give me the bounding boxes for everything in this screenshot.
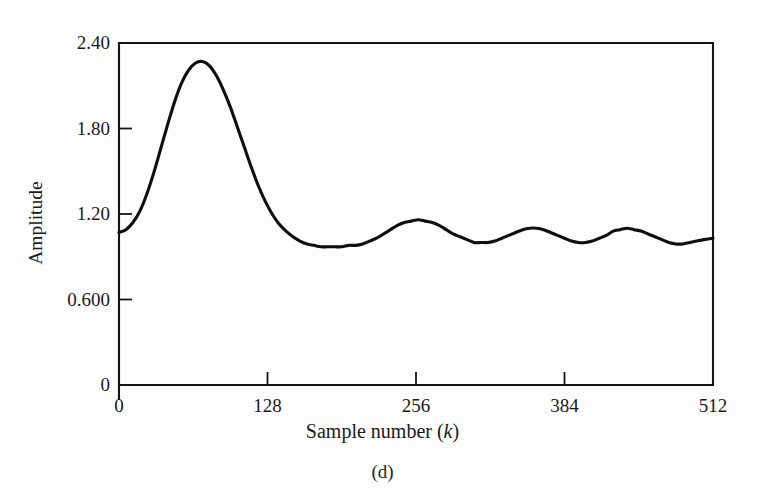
x-axis-title-suffix: ) — [452, 420, 459, 442]
y-tick-label: 1.80 — [0, 119, 110, 138]
axis-frame-path — [119, 43, 713, 385]
y-tick-label: 2.40 — [0, 33, 110, 52]
x-axis-title-prefix: Sample number ( — [306, 420, 444, 442]
x-tick-label: 128 — [228, 396, 308, 415]
x-tick-label: 256 — [376, 396, 456, 415]
x-tick-label: 0 — [79, 396, 159, 415]
figure-panel: 00.6001.201.802.40 0128256384512 Amplitu… — [0, 0, 765, 504]
y-axis-title: Amplitude — [25, 143, 47, 303]
x-tick-label: 512 — [673, 396, 753, 415]
figure-caption: (d) — [0, 461, 765, 483]
y-tick-marks — [119, 129, 132, 300]
x-tick-label: 384 — [525, 396, 605, 415]
amplitude-curve — [119, 61, 713, 247]
x-axis-title: Sample number (k) — [0, 420, 765, 443]
y-tick-label: 0 — [0, 375, 110, 394]
x-tick-marks — [268, 372, 565, 385]
y-tick-label: 1.20 — [0, 204, 110, 223]
y-tick-label: 0.600 — [0, 290, 110, 309]
